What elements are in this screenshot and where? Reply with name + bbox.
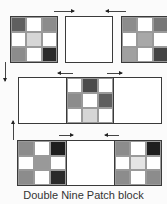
patch-square <box>115 170 130 185</box>
patch-square <box>98 93 113 108</box>
row1-nine-patch-left <box>10 16 58 63</box>
patch-square <box>137 32 152 47</box>
patch-square <box>115 156 130 171</box>
patch-square <box>67 108 82 123</box>
patch-square <box>137 47 152 62</box>
patch-square <box>11 17 26 32</box>
arrow-right-icon <box>59 135 73 136</box>
patch-square <box>42 17 57 32</box>
patch-square <box>130 170 145 185</box>
patch-square <box>146 141 161 156</box>
patch-square <box>146 170 161 185</box>
row2-plain-left <box>18 77 67 124</box>
patch-square <box>146 156 161 171</box>
row3-nine-patch-right <box>114 140 162 186</box>
patch-square <box>18 156 34 171</box>
patch-square <box>67 93 82 108</box>
patch-square <box>11 47 26 62</box>
patch-square <box>82 78 97 93</box>
patch-square <box>82 108 97 123</box>
arrow-right-icon <box>54 11 74 12</box>
patch-square <box>98 108 113 123</box>
patch-square <box>82 93 97 108</box>
patch-square <box>50 141 66 156</box>
row2-nine-patch-center <box>66 77 114 124</box>
patch-square <box>130 156 145 171</box>
arrow-left-icon <box>105 135 119 136</box>
patch-square <box>50 170 66 185</box>
patch-square <box>34 170 50 185</box>
patch-square <box>122 32 137 47</box>
row1-nine-patch-right <box>121 16 167 63</box>
patch-square <box>26 47 41 62</box>
patch-square <box>130 141 145 156</box>
patch-square <box>18 141 34 156</box>
patch-square <box>42 47 57 62</box>
arrow-left-icon <box>106 11 126 12</box>
patch-square <box>42 32 57 47</box>
patch-square <box>34 156 50 171</box>
patch-square <box>67 78 82 93</box>
arrow-up-icon <box>13 121 14 140</box>
figure-caption: Double Nine Patch block <box>0 189 167 201</box>
patch-square <box>153 32 167 47</box>
arrow-down-icon <box>5 62 6 81</box>
patch-square <box>153 17 167 32</box>
patch-square <box>18 170 34 185</box>
patch-square <box>34 141 50 156</box>
row1-plain-square <box>65 16 113 63</box>
patch-square <box>115 141 130 156</box>
patch-square <box>137 17 152 32</box>
row3-nine-patch-left <box>17 140 67 186</box>
patch-square <box>50 156 66 171</box>
patch-square <box>153 47 167 62</box>
patch-square <box>11 32 26 47</box>
arrow-right-icon <box>107 73 122 74</box>
arrow-left-icon <box>58 73 73 74</box>
patch-square <box>26 17 41 32</box>
patch-square <box>122 17 137 32</box>
row3-plain-square <box>66 140 115 186</box>
row2-plain-right <box>113 77 162 124</box>
patch-square <box>26 32 41 47</box>
patch-square <box>98 78 113 93</box>
patch-square <box>122 47 137 62</box>
